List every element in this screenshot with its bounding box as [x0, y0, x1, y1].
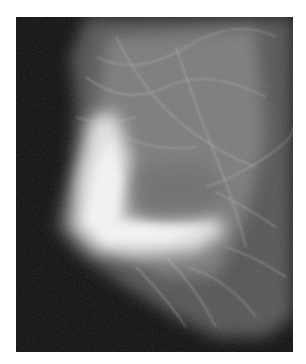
xray-rendering — [16, 17, 293, 352]
mammogram-image — [16, 17, 293, 352]
